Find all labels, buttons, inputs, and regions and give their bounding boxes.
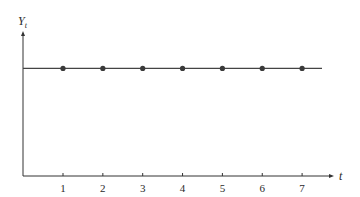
x-axis-label: t — [339, 169, 343, 183]
x-tick-label: 2 — [100, 182, 106, 194]
data-point — [140, 66, 145, 71]
data-point — [300, 66, 305, 71]
axes — [21, 31, 334, 178]
y-axis-arrow-icon — [21, 31, 25, 36]
data-point — [260, 66, 265, 71]
series-line — [23, 66, 322, 71]
x-tick-label: 6 — [260, 182, 266, 194]
x-tick-label: 7 — [299, 182, 305, 194]
data-point — [180, 66, 185, 71]
data-point — [60, 66, 65, 71]
x-tick-label: 4 — [180, 182, 186, 194]
data-point — [220, 66, 225, 71]
x-tick-label: 3 — [140, 182, 146, 194]
x-tick-label: 5 — [220, 182, 226, 194]
x-tick-label: 1 — [60, 182, 66, 194]
y-axis-label-subscript: t — [25, 21, 28, 30]
chart: 1234567 Yt t — [0, 0, 360, 197]
data-point — [100, 66, 105, 71]
y-axis-label: Yt — [18, 14, 28, 30]
x-axis-arrow-icon — [329, 174, 334, 178]
